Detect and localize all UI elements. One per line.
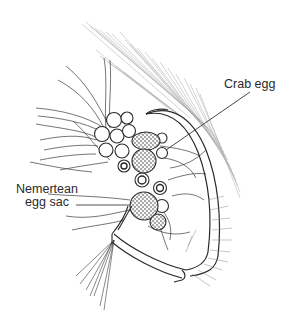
nemertean-egg-sac-label: Nemertean egg sac [13,183,81,209]
nemertean-label-line2: egg sac [13,196,81,209]
basal-setae [76,240,114,310]
crab-egg-label: Crab egg [224,78,275,91]
crab-appendage-drawing [0,0,294,316]
illustration [0,0,294,316]
